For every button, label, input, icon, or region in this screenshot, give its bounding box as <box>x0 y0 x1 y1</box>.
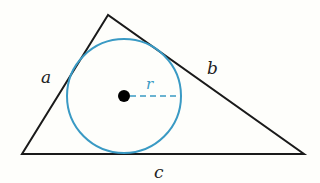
incenter-point <box>118 90 130 102</box>
triangle <box>22 15 304 154</box>
incircle-diagram: a b c r <box>0 0 320 183</box>
label-radius: r <box>146 75 154 93</box>
label-side-a: a <box>41 67 51 87</box>
label-side-c: c <box>154 162 164 182</box>
label-side-b: b <box>207 58 218 78</box>
